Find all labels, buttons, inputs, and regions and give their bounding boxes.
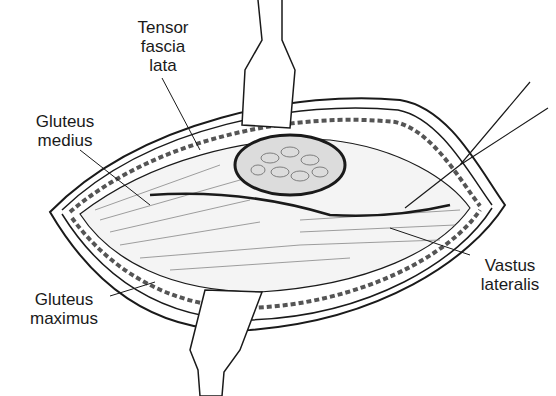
lower-retractor (190, 290, 262, 396)
label-gluteus-maximus: Gluteus maximus (16, 290, 112, 328)
surgical-illustration (0, 0, 556, 396)
upper-retractor (242, 0, 295, 128)
label-tensor-fascia-lata: Tensor fascia lata (118, 18, 208, 75)
label-vastus-lateralis: Vastus lateralis (470, 256, 550, 294)
exposed-bone (235, 135, 345, 195)
label-gluteus-medius: Gluteus medius (20, 112, 110, 150)
